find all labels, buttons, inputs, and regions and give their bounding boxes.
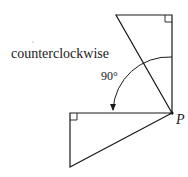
rotated-triangle bbox=[70, 113, 172, 167]
rotation-arc bbox=[113, 57, 172, 110]
stray-dot bbox=[32, 41, 33, 42]
arrowhead-icon bbox=[110, 104, 116, 111]
direction-label: counterclockwise bbox=[11, 46, 109, 61]
point-p-dot bbox=[170, 111, 173, 114]
rotation-diagram: counterclockwise 90° P bbox=[0, 0, 188, 177]
point-label: P bbox=[175, 112, 185, 127]
original-triangle bbox=[116, 15, 172, 113]
angle-label: 90° bbox=[101, 69, 118, 83]
